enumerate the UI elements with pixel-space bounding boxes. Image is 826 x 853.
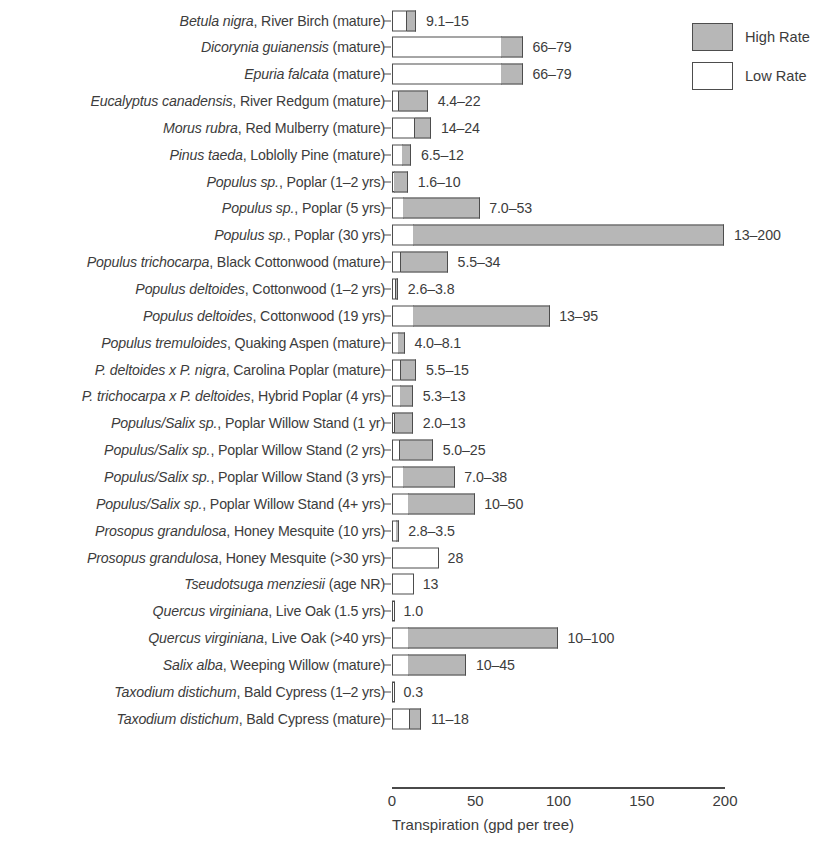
bar-segment-low-rate [392, 574, 414, 595]
species-scientific-name: Pinus taeda [169, 147, 242, 163]
bar-row: Taxodium distichum, Bald Cypress (mature… [0, 705, 826, 732]
species-common-name: , Bald Cypress (mature) [239, 710, 385, 726]
bar-row-label: Taxodium distichum, Bald Cypress (mature… [116, 711, 385, 725]
y-axis-tick [384, 181, 391, 182]
bar-segment-low-rate [392, 601, 395, 622]
bar-row: Quercus virginiana, Live Oak (1.5 yrs)1.… [0, 598, 826, 625]
bar-row-label: Populus sp., Poplar (30 yrs) [214, 228, 385, 242]
y-axis-tick [384, 235, 391, 236]
x-tick-label: 150 [629, 792, 654, 809]
bar-row: Prosopus grandulosa, Honey Mesquite (>30… [0, 544, 826, 571]
species-scientific-name: Quercus virginiana [148, 630, 264, 646]
species-scientific-name: Populus sp. [222, 200, 295, 216]
bar-segment-low-rate [392, 64, 502, 85]
bar-row-label: Quercus virginiana, Live Oak (1.5 yrs) [153, 604, 385, 618]
bar-segment-low-rate [392, 305, 414, 326]
legend-entry-high-rate: High Rate [692, 22, 826, 52]
bar-segment-high-rate [401, 252, 448, 273]
bar-segment-high-rate [413, 305, 550, 326]
y-axis-tick [384, 530, 391, 531]
species-scientific-name: Populus tremuloides [101, 335, 227, 351]
species-common-name: , River Birch (mature) [253, 12, 385, 28]
species-common-name: , Cottonwood (19 yrs) [253, 308, 385, 324]
bar-segment-high-rate [399, 91, 428, 112]
species-common-name: , Poplar Willow Stand (2 yrs) [210, 442, 385, 458]
legend-entry-low-rate: Low Rate [692, 61, 826, 91]
bar-row: Populus deltoides, Cottonwood (19 yrs)13… [0, 302, 826, 329]
bar-row: Prosopus grandulosa, Honey Mesquite (10 … [0, 517, 826, 544]
species-scientific-name: Populus sp. [206, 173, 279, 189]
bar-row-label: Eucalyptus canadensis, River Redgum (mat… [90, 94, 385, 108]
transpiration-bar-chart: Betula nigra, River Birch (mature)9.1–15… [0, 0, 826, 853]
bar-value-label: 7.0–53 [489, 201, 532, 215]
bar-value-label: 5.3–13 [423, 389, 466, 403]
bar-value-label: 14–24 [441, 121, 480, 135]
bar [392, 225, 724, 246]
bar [392, 144, 411, 165]
bar-row-label: Populus/Salix sp., Poplar Willow Stand (… [96, 497, 385, 511]
species-common-name: , Honey Mesquite (>30 yrs) [218, 549, 385, 565]
bar-value-label: 9.1–15 [426, 13, 469, 27]
legend-label-low-rate: Low Rate [745, 68, 807, 84]
bar-row-label: Salix alba, Weeping Willow (mature) [163, 658, 385, 672]
species-common-name: , Weeping Willow (mature) [223, 657, 385, 673]
species-common-name: , Live Oak (1.5 yrs) [268, 603, 385, 619]
legend-swatch-low-rate-icon [692, 62, 733, 90]
species-scientific-name: Populus/Salix sp. [111, 415, 217, 431]
y-axis-tick [384, 342, 391, 343]
bar-row-label: Populus/Salix sp., Poplar Willow Stand (… [104, 470, 385, 484]
x-tick-label: 50 [467, 792, 484, 809]
bar-value-label: 2.8–3.5 [408, 524, 455, 538]
species-common-name: , Carolina Poplar (mature) [226, 361, 385, 377]
bar [392, 279, 398, 300]
bar-value-label: 10–50 [484, 497, 523, 511]
bar-row: Populus tremuloides, Quaking Aspen (matu… [0, 329, 826, 356]
bar-row-label: Populus deltoides, Cottonwood (1–2 yrs) [135, 282, 385, 296]
bar [392, 117, 431, 138]
y-axis-tick [384, 101, 391, 102]
species-scientific-name: Populus/Salix sp. [104, 469, 210, 485]
bar-row-label: Prosopus grandulosa, Honey Mesquite (10 … [95, 524, 385, 538]
species-scientific-name: Populus deltoides [143, 308, 252, 324]
species-common-name: , Poplar (1–2 yrs) [279, 173, 385, 189]
bar [392, 359, 416, 380]
y-axis-tick [384, 584, 391, 585]
y-axis-tick [384, 208, 391, 209]
bar-segment-high-rate [501, 37, 523, 58]
y-axis-tick [384, 47, 391, 48]
species-common-name: , Poplar Willow Stand (4+ yrs) [202, 496, 385, 512]
bar-segment-high-rate [410, 708, 422, 729]
bar-segment-low-rate [392, 10, 407, 31]
bar-segment-high-rate [400, 386, 413, 407]
bar-segment-high-rate [408, 654, 466, 675]
bar-segment-low-rate [392, 628, 409, 649]
bar-row: Tseudotsuga menziesii (age NR)13 [0, 571, 826, 598]
y-axis-tick [384, 718, 391, 719]
chart-legend: High Rate Low Rate [692, 22, 826, 100]
y-axis-tick [384, 423, 391, 424]
species-common-name: (mature) [329, 39, 385, 55]
bar-value-label: 2.6–3.8 [408, 282, 455, 296]
species-scientific-name: Populus sp. [214, 227, 287, 243]
bar-segment-high-rate [396, 279, 399, 300]
x-tick-label: 0 [388, 792, 396, 809]
species-scientific-name: Populus/Salix sp. [104, 442, 210, 458]
bar-value-label: 10–45 [476, 658, 515, 672]
species-common-name: , Bald Cypress (1–2 yrs) [236, 684, 385, 700]
species-common-name: , Live Oak (>40 yrs) [264, 630, 385, 646]
bar-segment-high-rate [413, 225, 724, 246]
bar-row: Populus sp., Poplar (1–2 yrs)1.6–10 [0, 168, 826, 195]
bar-row-label: P. trichocarpa x P. deltoides, Hybrid Po… [82, 389, 385, 403]
bar [392, 10, 416, 31]
bar [392, 64, 523, 85]
bar-segment-high-rate [407, 10, 417, 31]
species-scientific-name: Quercus virginiana [153, 603, 269, 619]
bar-segment-low-rate [392, 225, 414, 246]
bar-row-label: P. deltoides x P. nigra, Carolina Poplar… [95, 362, 385, 376]
bar-segment-low-rate [392, 547, 439, 568]
bar-value-label: 13 [423, 577, 439, 591]
bar-value-label: 1.6–10 [418, 174, 461, 188]
bar [392, 198, 480, 219]
bar-segment-high-rate [395, 413, 413, 434]
bar-value-label: 66–79 [533, 67, 572, 81]
